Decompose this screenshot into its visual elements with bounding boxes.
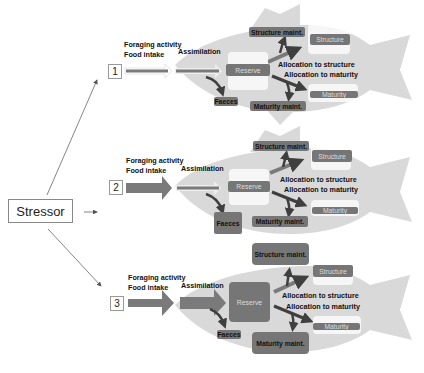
alloc-structure-label: Allocation to structure <box>280 175 357 184</box>
reserve-box: Reserve <box>228 181 270 192</box>
maturity-box: Maturity <box>310 91 358 98</box>
alloc-structure-label: Allocation to structure <box>282 291 359 300</box>
maturity-maint-box: Maturity maint. <box>252 216 308 227</box>
faeces-box: Faeces <box>217 330 241 339</box>
alloc-maturity-label: Allocation to maturity <box>284 70 358 79</box>
alloc-maturity-label: Allocation to maturity <box>284 185 358 194</box>
structure-box: Structure <box>313 265 353 277</box>
structure-box: Structure <box>312 150 352 162</box>
stressor-box: Stressor <box>8 199 73 223</box>
maturity-maint-box: Maturity maint. <box>250 101 306 111</box>
maturity-box: Maturity <box>312 207 358 214</box>
scenario-number: 1 <box>108 64 122 79</box>
assimilation-label: Assimilation <box>181 164 224 173</box>
maturity-box: Maturity <box>313 323 360 330</box>
structure-maint-box: Structure maint. <box>253 141 309 151</box>
faeces-box: Faeces <box>214 97 238 106</box>
alloc-structure-label: Allocation to structure <box>278 60 355 69</box>
structure-box: Structure <box>310 34 350 45</box>
assimilation-label: Assimilation <box>178 47 221 56</box>
faeces-box: Faeces <box>214 212 242 234</box>
assimilation-label: Assimilation <box>181 281 224 290</box>
reserve-box: Reserve <box>229 282 270 322</box>
foraging-label: Foraging activity <box>126 156 184 165</box>
food-intake-label: Food intake <box>126 166 166 175</box>
foraging-label: Foraging activity <box>128 273 186 282</box>
food-intake-label: Food intake <box>128 283 168 292</box>
food-intake-label: Food intake <box>124 50 164 59</box>
maturity-maint-box: Maturity maint. <box>252 332 309 354</box>
foraging-label: Foraging activity <box>124 40 182 49</box>
scenario-number: 3 <box>110 296 124 311</box>
reserve-box: Reserve <box>226 64 270 76</box>
scenario-number: 2 <box>109 180 123 195</box>
structure-maint-box: Structure maint. <box>249 27 305 37</box>
structure-maint-box: Structure maint. <box>252 243 309 265</box>
alloc-maturity-label: Allocation to maturity <box>286 302 360 311</box>
